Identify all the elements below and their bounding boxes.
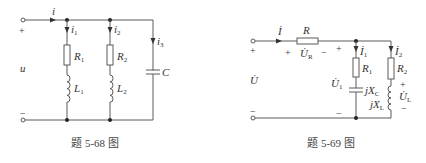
terminal-top bbox=[251, 39, 255, 43]
minus-sign: − bbox=[20, 108, 26, 119]
U1-plus: + bbox=[336, 43, 342, 54]
label-L1: L1 bbox=[73, 82, 84, 96]
plus-sign: + bbox=[250, 45, 256, 56]
label-i: i bbox=[52, 5, 55, 17]
node-bottom-1 bbox=[65, 118, 69, 122]
label-i1: i1 bbox=[71, 23, 78, 37]
figure-5-69: İ R + U̇R − + − İ1 R1 jXC U̇1 İ2 R2 jXL bbox=[250, 24, 411, 149]
label-i3: i3 bbox=[157, 35, 164, 49]
caption-5-68: 题 5-68 图 bbox=[71, 137, 119, 149]
U1-minus: − bbox=[336, 108, 342, 119]
label-u: u bbox=[20, 62, 26, 74]
plus-sign: + bbox=[19, 25, 25, 36]
label-i2: i2 bbox=[114, 23, 121, 37]
resistor-R1 bbox=[353, 58, 359, 77]
current-arrow-i bbox=[50, 18, 56, 23]
label-jXL: jXL bbox=[368, 98, 384, 112]
label-UL: U̇L bbox=[399, 90, 411, 104]
label-R1: R1 bbox=[73, 50, 85, 64]
label-R: R bbox=[302, 24, 310, 36]
inductor-L2 bbox=[110, 75, 113, 102]
label-R1: R1 bbox=[361, 62, 373, 76]
UR-minus: − bbox=[321, 47, 327, 58]
UL-minus: − bbox=[401, 103, 407, 114]
label-I2: İ2 bbox=[394, 45, 403, 59]
current-arrow-I bbox=[276, 39, 282, 44]
label-R2: R2 bbox=[116, 50, 128, 64]
label-L2: L2 bbox=[116, 82, 127, 96]
label-I: İ bbox=[277, 25, 283, 37]
label-UR: U̇R bbox=[300, 47, 313, 61]
label-U: U̇ bbox=[250, 74, 259, 86]
circuit-diagrams: i i1 R1 L1 i2 R2 L2 i3 C + u − bbox=[0, 0, 426, 163]
current-arrow-I2 bbox=[389, 46, 394, 52]
UL-plus: + bbox=[400, 79, 406, 90]
resistor-R2 bbox=[107, 45, 113, 65]
label-C: C bbox=[162, 66, 170, 78]
node-bottom-2 bbox=[108, 118, 112, 122]
node-bottom bbox=[354, 116, 358, 120]
terminal-top bbox=[21, 18, 25, 22]
current-arrow-i1 bbox=[65, 27, 70, 33]
resistor-R2 bbox=[388, 58, 394, 79]
label-R2: R2 bbox=[396, 62, 408, 76]
label-jXC: jXC bbox=[363, 84, 380, 98]
UR-plus: + bbox=[285, 47, 291, 58]
minus-sign: − bbox=[250, 106, 256, 117]
label-U1: U̇1 bbox=[331, 77, 343, 91]
resistor-R bbox=[297, 38, 318, 44]
caption-5-69: 题 5-69 图 bbox=[307, 137, 355, 149]
current-arrow-i2 bbox=[108, 27, 113, 33]
inductor-L bbox=[388, 86, 391, 110]
current-arrow-i3 bbox=[151, 38, 156, 44]
inductor-L1 bbox=[67, 75, 70, 102]
figure-5-68: i i1 R1 L1 i2 R2 L2 i3 C + u − bbox=[19, 5, 170, 149]
current-arrow-I1 bbox=[354, 46, 359, 52]
label-I1: İ1 bbox=[359, 45, 368, 59]
resistor-R1 bbox=[64, 45, 70, 65]
